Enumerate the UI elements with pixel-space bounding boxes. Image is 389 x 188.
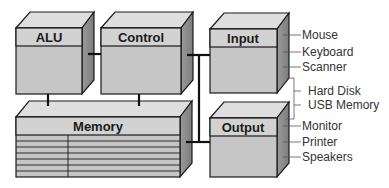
- device-monitor: Monitor: [302, 119, 342, 133]
- output-block: Output: [210, 102, 289, 177]
- input-block: Input: [210, 13, 289, 93]
- output-label: Output: [222, 120, 265, 135]
- device-hard-disk: Hard Disk: [308, 84, 362, 98]
- control-block: Control: [101, 12, 193, 94]
- architecture-diagram: ALU Control Input Memory: [0, 0, 389, 188]
- device-mouse: Mouse: [302, 28, 338, 42]
- device-keyboard: Keyboard: [302, 45, 353, 59]
- control-label: Control: [118, 30, 164, 45]
- device-usb-memory: USB Memory: [308, 98, 379, 112]
- device-printer: Printer: [302, 135, 337, 149]
- device-scanner: Scanner: [302, 60, 347, 74]
- device-speakers: Speakers: [302, 150, 353, 164]
- alu-block: ALU: [16, 12, 94, 94]
- memory-label: Memory: [73, 119, 124, 134]
- memory-block: Memory: [16, 101, 192, 177]
- input-label: Input: [227, 31, 259, 46]
- device-labels: Mouse Keyboard Scanner Hard Disk USB Mem…: [302, 28, 379, 164]
- alu-label: ALU: [36, 30, 63, 45]
